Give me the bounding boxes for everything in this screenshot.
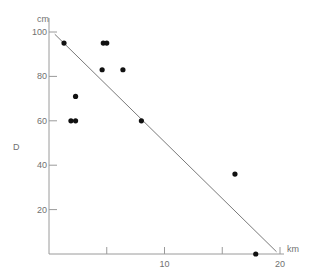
data-point [120,67,125,72]
regression-line [55,34,277,252]
x-axis-unit: km [287,244,299,254]
y-tick-label: 100 [32,27,47,37]
y-tick-label: 60 [37,116,47,126]
data-point [139,118,144,123]
x-tick-label: 10 [159,259,169,269]
data-point [61,41,66,46]
data-point [253,251,258,256]
axes [49,18,284,254]
data-point [100,67,105,72]
y-tick-label: 80 [37,71,47,81]
data-point [232,171,237,176]
data-point [73,118,78,123]
data-points [61,41,258,257]
fit-line [55,34,277,252]
data-point [73,94,78,99]
y-axis-unit: cm [37,14,49,24]
data-point [104,41,109,46]
y-axis-label: D [13,142,20,152]
data-point [68,118,73,123]
x-tick-label: 20 [275,259,285,269]
y-tick-label: 20 [37,205,47,215]
y-tick-label: 40 [37,160,47,170]
scatter-chart: 204060801001020 cm km D [0,0,315,276]
ticks: 204060801001020 [32,27,285,269]
